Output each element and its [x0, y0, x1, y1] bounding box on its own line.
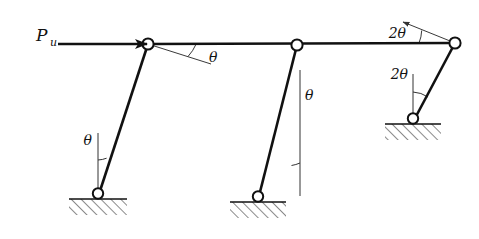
- beam-left-angle-label: θ: [209, 49, 218, 65]
- top-middle-hinge: [291, 39, 302, 50]
- base-middle-hinge: [253, 191, 263, 201]
- right-support: [385, 124, 441, 140]
- applied-load-label: P: [35, 25, 48, 45]
- beam-right-angle-label: 2θ: [388, 25, 407, 41]
- base-right-hinge: [408, 113, 418, 123]
- right-column-member: [413, 43, 455, 122]
- middle-support: [230, 202, 286, 218]
- top-right-hinge: [449, 37, 460, 48]
- left-support: [69, 199, 127, 215]
- base-left-hinge: [93, 188, 103, 198]
- beam-right-rotation-reference: [403, 22, 455, 43]
- right-column-angle-label: 2θ: [390, 66, 409, 82]
- middle-column-member: [258, 45, 297, 200]
- left-column-angle-label: θ: [84, 132, 93, 148]
- beam-left-rotation-reference: [148, 44, 211, 64]
- middle-column-angle-arc: [292, 163, 301, 166]
- applied-load-subscript: u: [50, 36, 57, 49]
- beam-left-angle-arc: [188, 44, 196, 56]
- structural-mechanism-figure: P u θ θ θ 2θ 2θ: [0, 0, 479, 239]
- left-support-hatching: [69, 199, 127, 215]
- left-column-angle-arc: [98, 158, 107, 160]
- middle-support-hatching: [230, 202, 286, 218]
- right-support-hatching: [385, 124, 441, 140]
- left-column-member: [98, 44, 148, 197]
- beam-right-angle-arc: [419, 31, 422, 44]
- frame-diagram-canvas: P u θ θ θ 2θ 2θ: [0, 0, 479, 239]
- middle-column-angle-label: θ: [305, 87, 314, 103]
